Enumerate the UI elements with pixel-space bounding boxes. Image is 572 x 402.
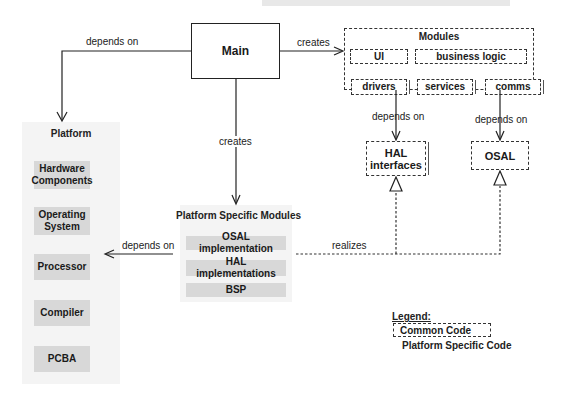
label-modules-hal: depends on (372, 111, 424, 122)
legend-title: Legend: (392, 311, 431, 322)
label-main-modules: creates (297, 37, 330, 48)
edge-realizes (296, 186, 500, 254)
label-main-psm: creates (219, 136, 252, 147)
label-psm-platform: depends on (122, 240, 174, 251)
legend-common-code: Common Code (393, 323, 491, 337)
label-realizes: realizes (332, 240, 366, 251)
label-main-platform: depends on (86, 36, 138, 47)
legend-platform-specific: Platform Specific Code (402, 340, 511, 351)
label-modules-osal: depends on (475, 114, 527, 125)
edge-main-platform (62, 51, 191, 120)
realization-triangle-osal (494, 171, 506, 185)
realization-triangle-hal (390, 177, 402, 191)
legend-common-label: Common Code (400, 325, 471, 336)
